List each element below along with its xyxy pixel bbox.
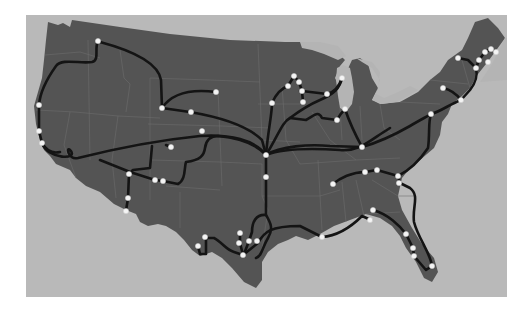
station-dot[interactable] [485, 59, 490, 64]
station-dot[interactable] [367, 217, 372, 222]
station-dot[interactable] [240, 252, 245, 257]
station-dot[interactable] [370, 207, 375, 212]
station-dot[interactable] [254, 238, 259, 243]
station-dot[interactable] [455, 55, 460, 60]
station-dot[interactable] [168, 144, 173, 149]
station-dot[interactable] [152, 177, 157, 182]
station-dot[interactable] [188, 109, 193, 114]
station-dot[interactable] [411, 253, 416, 258]
station-dot[interactable] [396, 180, 401, 185]
station-dot[interactable] [476, 57, 481, 62]
station-dot[interactable] [213, 89, 218, 94]
us-route-map [0, 0, 522, 313]
station-dot[interactable] [95, 38, 100, 43]
station-dot[interactable] [395, 173, 400, 178]
station-dot[interactable] [403, 231, 408, 236]
station-dot[interactable] [291, 73, 296, 78]
station-dot[interactable] [125, 195, 130, 200]
station-dot[interactable] [440, 85, 445, 90]
station-dot[interactable] [324, 91, 329, 96]
station-dot[interactable] [126, 171, 131, 176]
station-dot[interactable] [339, 75, 344, 80]
station-dot[interactable] [285, 83, 290, 88]
station-dot[interactable] [299, 88, 304, 93]
station-dot[interactable] [160, 178, 165, 183]
station-dot[interactable] [269, 100, 274, 105]
station-dot[interactable] [39, 140, 44, 145]
station-dot[interactable] [159, 105, 164, 110]
station-dot[interactable] [236, 240, 241, 245]
station-dot[interactable] [458, 97, 463, 102]
station-dot[interactable] [202, 234, 207, 239]
station-dot[interactable] [493, 49, 498, 54]
station-dot[interactable] [473, 65, 478, 70]
station-dot[interactable] [428, 111, 433, 116]
station-dot[interactable] [362, 169, 367, 174]
station-dot[interactable] [237, 230, 242, 235]
station-dot[interactable] [123, 208, 128, 213]
station-dot[interactable] [374, 167, 379, 172]
station-dot[interactable] [246, 238, 251, 243]
station-dot[interactable] [359, 144, 364, 149]
station-dot[interactable] [342, 106, 347, 111]
station-dot[interactable] [410, 245, 415, 250]
station-dot[interactable] [296, 79, 301, 84]
station-dot[interactable] [319, 234, 324, 239]
station-dot[interactable] [36, 102, 41, 107]
station-dot[interactable] [334, 117, 339, 122]
station-dot[interactable] [36, 128, 41, 133]
station-dot[interactable] [199, 128, 204, 133]
station-dot[interactable] [300, 99, 305, 104]
station-dot[interactable] [263, 152, 268, 157]
station-dot[interactable] [488, 46, 493, 51]
station-dot[interactable] [195, 243, 200, 248]
station-dot[interactable] [429, 263, 434, 268]
station-dot[interactable] [330, 181, 335, 186]
station-dot[interactable] [263, 174, 268, 179]
station-dot[interactable] [482, 49, 487, 54]
